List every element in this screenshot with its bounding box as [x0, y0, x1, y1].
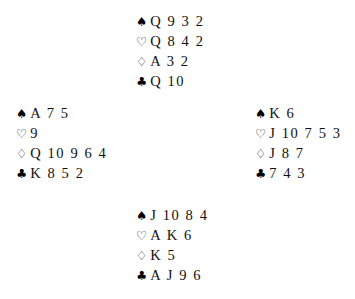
north-club-ranks: Q 10: [150, 71, 185, 91]
west-heart-ranks: 9: [30, 123, 39, 143]
north-heart-ranks: Q 8 4 2: [150, 31, 204, 51]
east-club-ranks: 7 4 3: [269, 163, 306, 183]
east-diamond-ranks: J 8 7: [269, 143, 304, 163]
south-diamond-ranks: K 5: [150, 245, 176, 265]
heart-suit-icon: ♡: [136, 226, 147, 246]
east-heart-ranks: J 10 7 5 3: [269, 123, 341, 143]
south-diamond-line: ♢ K 5: [136, 245, 209, 265]
west-spade-ranks: A 7 5: [30, 103, 69, 123]
hand-east: ♠ K 6 ♡ J 10 7 5 3 ♢ J 8 7 ♣ 7 4 3: [255, 103, 342, 183]
west-diamond-ranks: Q 10 9 6 4: [30, 143, 107, 163]
north-diamond-ranks: A 3 2: [150, 51, 189, 71]
south-heart-line: ♡ A K 6: [136, 225, 209, 245]
north-diamond-line: ♢ A 3 2: [136, 51, 205, 71]
south-club-ranks: A J 9 6: [150, 265, 202, 285]
club-suit-icon: ♣: [136, 266, 147, 286]
diamond-suit-icon: ♢: [16, 144, 27, 164]
west-heart-line: ♡ 9: [16, 123, 107, 143]
hand-north: ♠ Q 9 3 2 ♡ Q 8 4 2 ♢ A 3 2 ♣ Q 10: [136, 11, 205, 91]
north-spade-ranks: Q 9 3 2: [150, 11, 204, 31]
east-spade-ranks: K 6: [269, 103, 295, 123]
east-heart-line: ♡ J 10 7 5 3: [255, 123, 342, 143]
club-suit-icon: ♣: [16, 164, 27, 184]
hand-west: ♠ A 7 5 ♡ 9 ♢ Q 10 9 6 4 ♣ K 8 5 2: [16, 103, 107, 183]
west-diamond-line: ♢ Q 10 9 6 4: [16, 143, 107, 163]
south-spade-ranks: J 10 8 4: [150, 205, 208, 225]
heart-suit-icon: ♡: [255, 124, 266, 144]
diamond-suit-icon: ♢: [136, 246, 147, 266]
club-suit-icon: ♣: [136, 72, 147, 92]
club-suit-icon: ♣: [255, 164, 266, 184]
west-spade-line: ♠ A 7 5: [16, 103, 107, 123]
spade-suit-icon: ♠: [136, 12, 147, 32]
spade-suit-icon: ♠: [136, 206, 147, 226]
diamond-suit-icon: ♢: [136, 52, 147, 72]
east-diamond-line: ♢ J 8 7: [255, 143, 342, 163]
diamond-suit-icon: ♢: [255, 144, 266, 164]
heart-suit-icon: ♡: [136, 32, 147, 52]
north-heart-line: ♡ Q 8 4 2: [136, 31, 205, 51]
south-spade-line: ♠ J 10 8 4: [136, 205, 209, 225]
bridge-deal-diagram: ♠ Q 9 3 2 ♡ Q 8 4 2 ♢ A 3 2 ♣ Q 10 ♠ A 7…: [0, 0, 355, 299]
west-club-line: ♣ K 8 5 2: [16, 163, 107, 183]
west-club-ranks: K 8 5 2: [30, 163, 84, 183]
spade-suit-icon: ♠: [16, 104, 27, 124]
east-spade-line: ♠ K 6: [255, 103, 342, 123]
south-club-line: ♣ A J 9 6: [136, 265, 209, 285]
east-club-line: ♣ 7 4 3: [255, 163, 342, 183]
hand-south: ♠ J 10 8 4 ♡ A K 6 ♢ K 5 ♣ A J 9 6: [136, 205, 209, 285]
south-heart-ranks: A K 6: [150, 225, 193, 245]
north-club-line: ♣ Q 10: [136, 71, 205, 91]
spade-suit-icon: ♠: [255, 104, 266, 124]
north-spade-line: ♠ Q 9 3 2: [136, 11, 205, 31]
heart-suit-icon: ♡: [16, 124, 27, 144]
